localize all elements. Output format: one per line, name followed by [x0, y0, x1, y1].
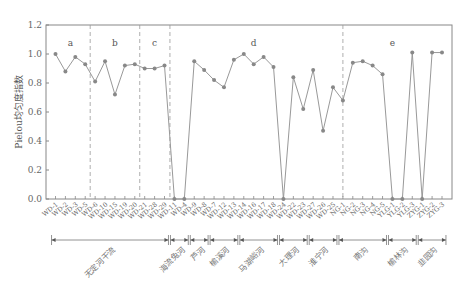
group-label: 韭园沟 — [415, 244, 439, 268]
data-point — [54, 52, 58, 56]
data-point — [440, 51, 444, 55]
data-point — [202, 68, 206, 72]
data-point — [390, 197, 394, 201]
arrow-right-icon — [412, 238, 416, 242]
data-point — [262, 55, 266, 59]
data-point — [103, 59, 107, 63]
y-tick-label: 0.4 — [28, 136, 43, 146]
y-tick-label: 0.8 — [28, 78, 43, 88]
y-tick-label: 0.0 — [28, 194, 43, 204]
group-label: 榆林沟 — [386, 244, 410, 268]
arrow-right-icon — [382, 238, 386, 242]
y-tick-label: 1.0 — [28, 49, 43, 59]
arrow-left-icon — [190, 238, 194, 242]
data-point — [133, 62, 137, 66]
pielou-evenness-chart: 0.00.20.40.60.81.01.2Pielou均匀度指数abcdeWD-… — [0, 0, 471, 291]
group-label: 海流兔河 — [157, 244, 187, 274]
data-point — [93, 80, 97, 84]
data-point — [163, 64, 167, 68]
data-point — [172, 197, 176, 201]
data-point — [182, 197, 186, 201]
y-tick-label: 1.2 — [28, 20, 42, 30]
arrow-right-icon — [442, 238, 446, 242]
group-label: 芦河 — [188, 244, 206, 262]
data-point — [153, 67, 157, 71]
data-point — [113, 93, 117, 97]
arrow-right-icon — [303, 238, 307, 242]
arrow-right-icon — [204, 238, 208, 242]
arrow-left-icon — [339, 238, 343, 242]
data-point — [321, 129, 325, 133]
region-label-a: a — [68, 38, 74, 48]
data-point — [232, 58, 236, 62]
data-point — [341, 98, 345, 102]
data-point — [222, 85, 226, 89]
arrow-left-icon — [309, 238, 313, 242]
group-label: 无定河干流 — [82, 244, 117, 279]
arrow-right-icon — [273, 238, 277, 242]
data-point — [143, 67, 147, 71]
y-tick-label: 0.6 — [28, 107, 43, 117]
data-point — [410, 51, 414, 55]
region-label-d: d — [251, 38, 257, 48]
arrow-left-icon — [279, 238, 283, 242]
arrow-right-icon — [333, 238, 337, 242]
arrow-right-icon — [234, 238, 238, 242]
y-tick-label: 0.2 — [28, 165, 42, 175]
arrow-left-icon — [170, 238, 174, 242]
arrow-left-icon — [418, 238, 422, 242]
y-axis-label: Pielou均匀度指数 — [13, 75, 24, 148]
arrow-left-icon — [388, 238, 392, 242]
group-label: 榆溪河 — [207, 244, 231, 268]
group-label: 南沟 — [352, 244, 370, 262]
data-point — [212, 78, 216, 82]
data-point — [351, 61, 355, 65]
data-point — [291, 75, 295, 79]
data-point — [83, 62, 87, 66]
data-point — [73, 55, 77, 59]
data-point — [301, 107, 305, 111]
group-label: 淮宁河 — [306, 244, 330, 268]
arrow-left-icon — [240, 238, 244, 242]
region-label-b: b — [112, 38, 118, 48]
data-point — [400, 197, 404, 201]
data-point — [331, 85, 335, 89]
region-label-c: c — [152, 38, 157, 48]
data-point — [361, 59, 365, 63]
region-label-e: e — [390, 38, 395, 48]
data-point — [242, 52, 246, 56]
data-point — [311, 68, 315, 72]
arrow-left-icon — [52, 238, 56, 242]
data-point — [252, 62, 256, 66]
data-point — [371, 64, 375, 68]
data-point — [420, 197, 424, 201]
data-point — [430, 51, 434, 55]
arrow-right-icon — [184, 238, 188, 242]
plot-frame — [46, 25, 452, 199]
data-point — [63, 69, 67, 73]
data-point — [281, 197, 285, 201]
plot-area: 0.00.20.40.60.81.01.2Pielou均匀度指数abcdeWD-… — [13, 20, 452, 280]
data-point — [192, 59, 196, 63]
data-point — [123, 64, 127, 68]
group-label: 大理河 — [277, 244, 301, 268]
data-point — [272, 65, 276, 69]
arrow-right-icon — [164, 238, 168, 242]
data-point — [381, 72, 385, 76]
arrow-left-icon — [210, 238, 214, 242]
group-label: 马湖峪河 — [236, 244, 266, 274]
